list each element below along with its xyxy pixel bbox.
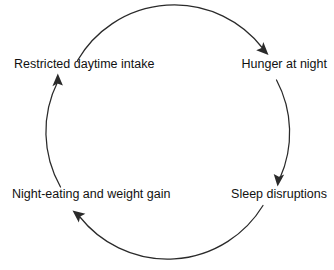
node-label-hunger-at-night: Hunger at night [242,57,328,71]
edge-intake-to-hunger [78,5,269,61]
node-label-night-eating-and-weight-gain: Night-eating and weight gain [12,187,170,201]
edge-hunger-to-sleep-arc [277,80,290,179]
edge-intake-to-hunger-arc [78,5,263,61]
edge-hunger-to-sleep-arrowhead [274,174,285,187]
edge-hunger-to-sleep [274,80,290,187]
edge-night-eating-to-intake-arrowhead [52,74,63,87]
edge-intake-to-hunger-arrowhead [256,42,268,55]
node-label-sleep-disruptions: Sleep disruptions [231,187,327,201]
node-label-restricted-daytime-intake: Restricted daytime intake [14,57,154,71]
edge-sleep-to-night-eating-arc [80,206,264,260]
edge-night-eating-to-intake-arc [46,82,61,188]
edge-sleep-to-night-eating [73,206,264,260]
edge-night-eating-to-intake [46,74,63,188]
cycle-diagram: Restricted daytime intake Hunger at nigh… [0,0,334,270]
